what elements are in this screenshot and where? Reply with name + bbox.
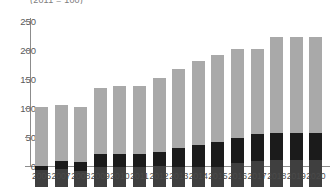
bar-segment-middle-segment-2007 bbox=[55, 161, 68, 169]
bar-segment-middle-segment-2017 bbox=[251, 134, 264, 161]
bar-segment-middle-segment-2014 bbox=[192, 145, 205, 167]
bar-segment-middle-segment-2011 bbox=[133, 154, 146, 167]
x-tick-label-2020: 2020 bbox=[303, 171, 329, 181]
bar-2016 bbox=[231, 21, 244, 187]
bar-segment-top-segment-2019 bbox=[290, 37, 303, 132]
y-tick-label-0: 0 bbox=[0, 161, 36, 172]
bar-2011 bbox=[133, 21, 146, 187]
y-tick-mark-200 bbox=[25, 50, 30, 51]
bar-2020 bbox=[309, 21, 322, 187]
bar-segment-top-segment-2011 bbox=[133, 86, 146, 154]
y-tick-mark-100 bbox=[25, 108, 30, 109]
chart-subtitle: (2011 = 100) bbox=[30, 0, 83, 4]
bar-2018 bbox=[270, 21, 283, 187]
bar-segment-top-segment-2008 bbox=[74, 107, 87, 162]
bar-2017 bbox=[251, 21, 264, 187]
bar-segment-middle-segment-2012 bbox=[153, 152, 166, 167]
bar-segment-middle-segment-2016 bbox=[231, 138, 244, 163]
bar-segment-top-segment-2016 bbox=[231, 49, 244, 138]
stacked-bar-chart: (2011 = 100) 050100150200250 20062007200… bbox=[0, 0, 330, 187]
y-tick-label-150: 150 bbox=[0, 74, 36, 85]
bar-segment-top-segment-2014 bbox=[192, 61, 205, 145]
bar-2019 bbox=[290, 21, 303, 187]
bar-segment-middle-segment-2020 bbox=[309, 133, 322, 160]
bar-segment-top-segment-2010 bbox=[113, 86, 126, 154]
y-tick-mark-150 bbox=[25, 79, 30, 80]
bar-segment-middle-segment-2018 bbox=[270, 133, 283, 160]
y-tick-label-250: 250 bbox=[0, 16, 36, 27]
bar-2009 bbox=[94, 21, 107, 187]
bar-segment-top-segment-2006 bbox=[35, 107, 48, 166]
bar-segment-top-segment-2012 bbox=[153, 78, 166, 152]
bar-2015 bbox=[211, 21, 224, 187]
y-tick-label-200: 200 bbox=[0, 45, 36, 56]
bar-segment-middle-segment-2019 bbox=[290, 133, 303, 160]
bar-segment-top-segment-2017 bbox=[251, 49, 264, 134]
bar-segment-top-segment-2009 bbox=[94, 88, 107, 154]
bar-segment-middle-segment-2015 bbox=[211, 142, 224, 168]
bar-2008 bbox=[74, 21, 87, 187]
y-tick-label-50: 50 bbox=[0, 132, 36, 143]
bar-segment-top-segment-2015 bbox=[211, 55, 224, 142]
bar-segment-middle-segment-2008 bbox=[74, 162, 87, 171]
bar-segment-top-segment-2018 bbox=[270, 37, 283, 132]
bar-segment-middle-segment-2013 bbox=[172, 148, 185, 167]
bar-segment-top-segment-2007 bbox=[55, 105, 68, 161]
bar-2006 bbox=[35, 21, 48, 187]
bar-2014 bbox=[192, 21, 205, 187]
bar-2010 bbox=[113, 21, 126, 187]
bar-segment-top-segment-2013 bbox=[172, 69, 185, 147]
bar-2013 bbox=[172, 21, 185, 187]
bar-segment-middle-segment-2009 bbox=[94, 154, 107, 167]
bar-2012 bbox=[153, 21, 166, 187]
y-tick-mark-0 bbox=[25, 166, 30, 167]
y-axis-line bbox=[30, 18, 31, 167]
y-tick-label-100: 100 bbox=[0, 103, 36, 114]
bar-2007 bbox=[55, 21, 68, 187]
bar-segment-top-segment-2020 bbox=[309, 37, 322, 132]
bar-segment-middle-segment-2010 bbox=[113, 154, 126, 167]
y-tick-mark-50 bbox=[25, 137, 30, 138]
y-tick-mark-250 bbox=[25, 21, 30, 22]
